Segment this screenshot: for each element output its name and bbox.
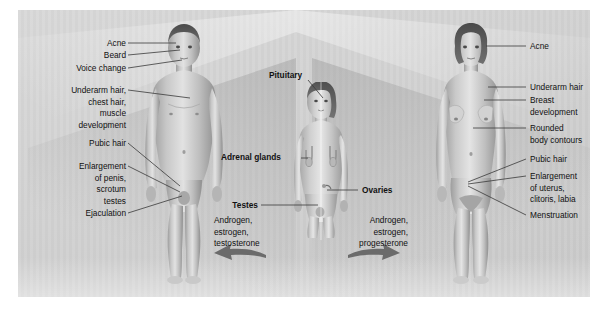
hormone-text-male: Androgen, estrogen, testosterone xyxy=(214,215,284,250)
label-male-beard: Beard xyxy=(18,50,126,62)
label-female-rounded: Rounded body contours xyxy=(530,123,590,146)
hormone-text-female: Androgen, estrogen, progesterone xyxy=(336,215,408,250)
label-female-enlargement: Enlargement of uterus, clitoris, labia xyxy=(530,171,590,206)
label-female-acne: Acne xyxy=(530,41,590,53)
label-ovaries: Ovaries xyxy=(362,185,412,197)
label-male-underarm: Underarm hair, chest hair, muscle develo… xyxy=(18,85,126,131)
female-figure xyxy=(413,22,529,284)
label-testes: Testes xyxy=(216,200,258,212)
diagram-stage: Acne Beard Voice change Underarm hair, c… xyxy=(0,0,608,322)
label-male-ejaculation: Ejaculation xyxy=(18,208,126,220)
label-female-breast: Breast development xyxy=(530,95,590,118)
illustration-panel: Acne Beard Voice change Underarm hair, c… xyxy=(18,10,590,297)
label-male-pubic: Pubic hair xyxy=(18,138,126,150)
label-male-enlargement: Enlargement of penis, scrotum testes xyxy=(18,161,126,207)
label-female-pubic: Pubic hair xyxy=(530,154,590,166)
label-female-underarm: Underarm hair xyxy=(530,82,590,94)
label-female-menstruation: Menstruation xyxy=(530,210,590,222)
label-pituitary: Pituitary xyxy=(269,70,329,82)
label-male-acne: Acne xyxy=(18,38,126,50)
label-male-voice: Voice change xyxy=(18,63,126,75)
label-adrenal-glands: Adrenal glands xyxy=(221,152,303,164)
